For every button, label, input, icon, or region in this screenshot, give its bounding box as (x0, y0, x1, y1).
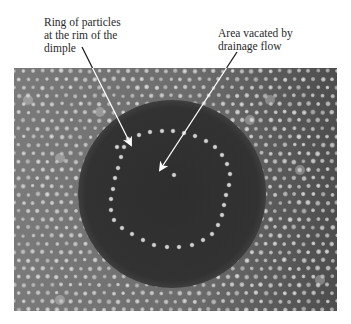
dimple-dark-disc (78, 100, 266, 288)
micrograph-photo (11, 67, 346, 321)
arrow-ring-leader (82, 47, 93, 68)
micrograph (0, 0, 351, 324)
arrow-area-leader (227, 52, 237, 68)
